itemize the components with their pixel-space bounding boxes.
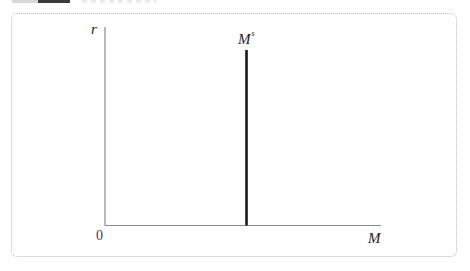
money-supply-label-main: M (238, 31, 251, 47)
money-market-diagram: r Ms 0 M (0, 0, 470, 271)
diagram-canvas (0, 0, 470, 271)
money-supply-label: Ms (238, 32, 255, 47)
y-axis-label: r (91, 22, 97, 37)
money-supply-label-superscript: s (252, 29, 255, 38)
origin-label: 0 (96, 229, 103, 243)
x-axis-label: M (368, 231, 381, 246)
